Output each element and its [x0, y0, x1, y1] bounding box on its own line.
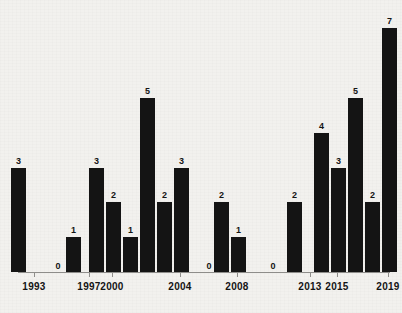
bar-2015-value-label: 4 [308, 121, 335, 131]
zero-label-2006: 0 [201, 261, 217, 271]
x-tick-1997-mark [89, 272, 90, 277]
bar-2003 [140, 98, 155, 272]
bar-1993 [11, 168, 26, 272]
x-tick-2013-mark [310, 272, 311, 277]
bar-2001 [106, 202, 121, 272]
bar-1997 [66, 237, 81, 272]
bar-1993-value-label: 3 [5, 156, 32, 166]
zero-label-2011: 0 [265, 261, 281, 271]
bar-2002 [123, 237, 138, 272]
bar-2015 [314, 133, 329, 272]
bar-2017-value-label: 5 [342, 86, 369, 96]
x-tick-1993-label: 1993 [14, 281, 54, 293]
bar-2000 [89, 168, 104, 272]
x-tick-2008-label: 2008 [217, 281, 257, 293]
x-tick-2008-mark [237, 272, 238, 277]
bar-2017 [348, 98, 363, 272]
bar-2019 [382, 28, 397, 272]
bar-2005-value-label: 3 [168, 156, 195, 166]
bar-2008-value-label: 2 [208, 190, 235, 200]
x-tick-2004-label: 2004 [160, 281, 200, 293]
bar-2003-value-label: 5 [134, 86, 161, 96]
bar-2018 [365, 202, 380, 272]
bar-2013 [287, 202, 302, 272]
bar-2004 [157, 202, 172, 272]
bar-2016 [331, 168, 346, 272]
x-tick-2004-mark [180, 272, 181, 277]
x-tick-2015-mark [337, 272, 338, 277]
x-tick-2019-mark [388, 272, 389, 277]
bar-2009-value-label: 1 [225, 225, 252, 235]
bar-chart: 3132152321243527 0000 199319972000200420… [0, 0, 402, 313]
bar-2019-value-label: 7 [376, 16, 402, 26]
x-tick-2000-mark [112, 272, 113, 277]
x-tick-2019-label: 2019 [368, 281, 402, 293]
x-tick-2000-label: 2000 [92, 281, 132, 293]
zero-label-2014: 0 [312, 261, 328, 271]
bar-2001-value-label: 2 [100, 190, 127, 200]
x-axis-line [18, 272, 390, 273]
zero-label-1994: 0 [50, 261, 66, 271]
bar-2009 [231, 237, 246, 272]
plot-area: 3132152321243527 0000 199319972000200420… [0, 0, 402, 313]
bar-1997-value-label: 1 [60, 225, 87, 235]
x-tick-1993-mark [34, 272, 35, 277]
x-tick-2015-label: 2015 [317, 281, 357, 293]
bar-2005 [174, 168, 189, 272]
bar-2013-value-label: 2 [281, 190, 308, 200]
bar-2000-value-label: 3 [83, 156, 110, 166]
